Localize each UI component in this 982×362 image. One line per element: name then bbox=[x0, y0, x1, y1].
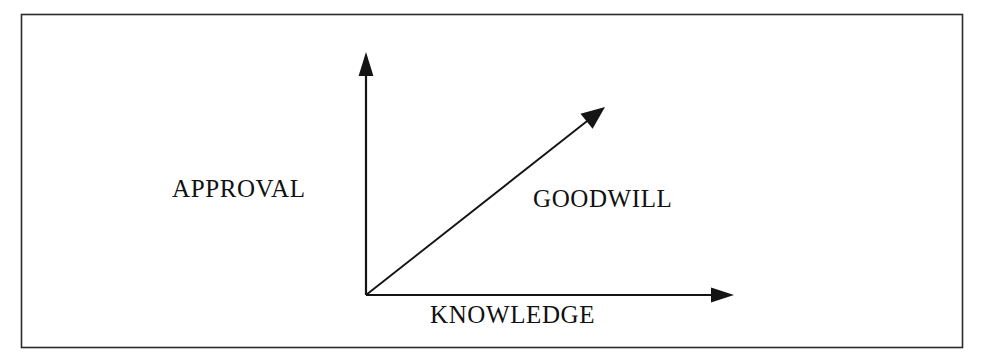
diagonal-axis-label: GOODWILL bbox=[533, 186, 672, 211]
outer-border bbox=[22, 15, 963, 348]
vertical-axis-arrowhead-icon bbox=[359, 52, 374, 76]
horizontal-axis-label: KNOWLEDGE bbox=[430, 302, 595, 327]
horizontal-axis-arrowhead-icon bbox=[711, 287, 734, 302]
diagram-canvas: APPROVAL GOODWILL KNOWLEDGE bbox=[0, 0, 982, 362]
vertical-axis-label: APPROVAL bbox=[172, 176, 306, 201]
diagonal-axis-arrowhead-icon bbox=[581, 107, 606, 129]
